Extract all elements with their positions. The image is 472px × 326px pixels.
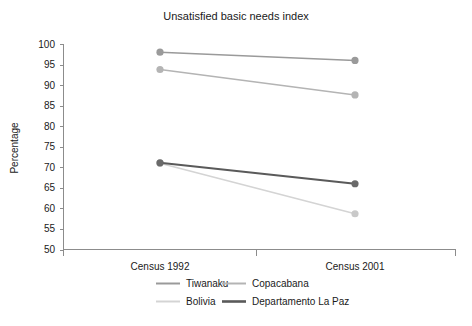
y-axis-tick-label: 100 [38, 39, 55, 50]
y-axis-tick-label: 70 [44, 162, 56, 173]
series-point [351, 91, 358, 98]
series-point [351, 57, 358, 64]
series-point [156, 66, 163, 73]
y-axis-tick-label: 65 [44, 182, 56, 193]
series-point [351, 180, 358, 187]
y-axis-tick-label: 85 [44, 100, 56, 111]
y-axis-tick-label: 95 [44, 59, 56, 70]
unsatisfied-basic-needs-index-line-chart: Unsatisfied basic needs index Percentage… [0, 0, 472, 326]
legend-label: Departamento La Paz [252, 296, 349, 307]
legend-label: Copacabana [252, 278, 309, 289]
y-axis-tick-label: 80 [44, 121, 56, 132]
legend-label: Bolivia [186, 296, 216, 307]
chart-title: Unsatisfied basic needs index [163, 10, 309, 22]
chart-container: Unsatisfied basic needs index Percentage… [0, 0, 472, 326]
y-axis-tick-label: 75 [44, 141, 56, 152]
series-point [156, 49, 163, 56]
y-axis-tick-label: 50 [44, 244, 56, 255]
series-point [156, 159, 163, 166]
y-axis-tick-label: 60 [44, 203, 56, 214]
chart-background [0, 0, 472, 326]
series-point [351, 210, 358, 217]
y-axis-tick-label: 55 [44, 223, 56, 234]
y-axis-tick-label: 90 [44, 80, 56, 91]
y-axis-title: Percentage [9, 122, 20, 174]
x-axis-category-label: Census 2001 [326, 261, 385, 272]
x-axis-category-label: Census 1992 [131, 261, 190, 272]
